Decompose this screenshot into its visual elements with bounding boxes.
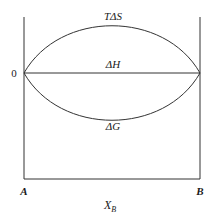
delta-h-label: ΔH — [105, 58, 121, 70]
x-axis-title: XB — [103, 198, 116, 214]
t-delta-s-label: TΔS — [104, 10, 123, 22]
x-axis-title-subscript: B — [111, 205, 116, 214]
axis-left-label-a: A — [19, 185, 27, 197]
thermodynamic-mixing-diagram: TΔS ΔH ΔG 0 A B XB — [0, 0, 216, 220]
delta-g-label: ΔG — [105, 120, 120, 132]
axis-right-label-b: B — [195, 185, 203, 197]
zero-label: 0 — [11, 67, 17, 79]
delta-g-curve — [24, 73, 200, 120]
